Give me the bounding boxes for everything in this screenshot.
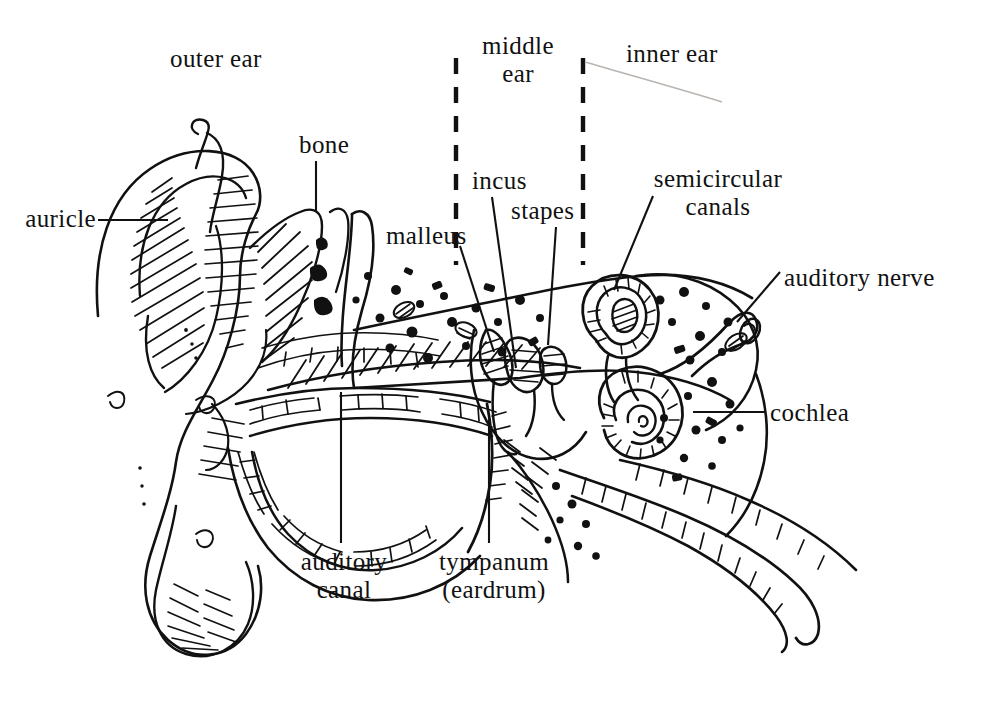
- auricle-group: [97, 120, 267, 657]
- temporal-bone: [310, 211, 758, 482]
- semicircular-canals: [583, 275, 659, 402]
- cochlea-spiral: [599, 367, 682, 459]
- region-label-middle-ear-line2: ear: [502, 60, 534, 87]
- region-label-outer-ear: outer ear: [170, 45, 262, 73]
- label-tympanum-line2: (eardrum): [442, 576, 546, 603]
- label-malleus: malleus: [386, 222, 467, 250]
- region-label-middle-ear-line1: middle: [482, 32, 554, 59]
- label-semicircular-canals: semicircularcanals: [629, 165, 807, 221]
- label-auditory-canal-line1: auditory: [301, 548, 388, 575]
- region-label-middle-ear: middleear: [468, 32, 568, 88]
- label-auditory-canal: auditorycanal: [285, 548, 403, 604]
- region-dividers: [456, 58, 722, 265]
- label-tympanum: tympanum(eardrum): [420, 548, 568, 604]
- label-stapes: stapes: [511, 197, 575, 225]
- label-bone: bone: [299, 131, 349, 159]
- label-tympanum-line1: tympanum: [439, 548, 549, 575]
- label-incus: incus: [472, 167, 527, 195]
- label-auricle: auricle: [0, 205, 96, 233]
- label-auditory-canal-line2: canal: [317, 576, 372, 603]
- faint-artifact-line: [585, 62, 722, 102]
- label-cochlea: cochlea: [770, 399, 849, 427]
- region-label-inner-ear: inner ear: [626, 40, 718, 68]
- leader-auditory-nerve: [737, 272, 780, 322]
- leader-stapes: [548, 227, 556, 345]
- label-auditory-nerve: auditory nerve: [784, 264, 935, 292]
- ear-anatomy-figure: outer ear middleear inner ear auricle bo…: [0, 0, 995, 703]
- label-semicircular-canals-line2: canals: [686, 193, 751, 220]
- label-semicircular-canals-line1: semicircular: [654, 165, 782, 192]
- stapes-bone: [540, 347, 566, 420]
